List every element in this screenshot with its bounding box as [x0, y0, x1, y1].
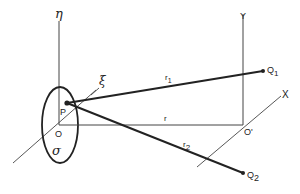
xi-pointer: [91, 88, 99, 95]
sigma-label: σ: [52, 143, 62, 158]
q2-label: Q2: [247, 170, 259, 183]
o-prime-label: O': [244, 127, 253, 137]
y-label: Y: [240, 11, 246, 21]
x-axis: [197, 96, 281, 167]
r2-line: [67, 103, 243, 173]
xi-label: ξ: [99, 74, 107, 88]
q1-label: Q1: [267, 65, 279, 78]
o-label: O: [55, 129, 62, 139]
p-label: P: [60, 107, 66, 117]
r-label: r: [164, 114, 167, 123]
eta-label: η: [55, 6, 63, 21]
point-p: [64, 100, 69, 105]
aperture-diagram: η ξ σ P O O' Y X r r1 r2 Q1 Q2: [0, 0, 300, 194]
point-q1: [261, 69, 265, 73]
point-q2: [241, 171, 245, 175]
x-label: X: [282, 89, 289, 100]
r1-label: r1: [165, 73, 172, 84]
